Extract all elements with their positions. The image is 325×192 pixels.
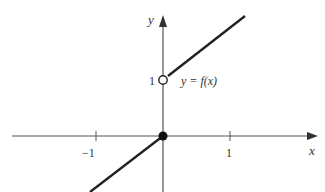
x-tick-label-pos1: 1 bbox=[226, 146, 232, 160]
x-tick-label-neg1: −1 bbox=[82, 146, 95, 160]
y-axis-arrow-icon bbox=[159, 15, 167, 27]
open-point bbox=[159, 76, 167, 84]
y-axis bbox=[159, 15, 167, 192]
y-tick-label-1: 1 bbox=[149, 74, 155, 88]
right-branch-line bbox=[168, 16, 245, 76]
function-graph: y x 1 −1 1 y = f(x) bbox=[0, 0, 325, 192]
y-axis-label: y bbox=[146, 12, 154, 27]
function-label: y = f(x) bbox=[180, 74, 217, 88]
x-axis-label: x bbox=[308, 143, 315, 158]
left-branch-line bbox=[90, 136, 163, 192]
x-axis-arrow-icon bbox=[307, 132, 318, 140]
closed-point bbox=[159, 132, 168, 141]
